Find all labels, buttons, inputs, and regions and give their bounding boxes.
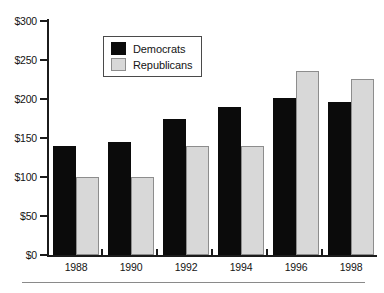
bar-republicans-1996 — [296, 71, 319, 255]
bar-republicans-1994 — [241, 146, 264, 255]
bar-republicans-1992 — [186, 146, 209, 255]
x-tick-3 — [266, 249, 268, 256]
plot-area — [47, 18, 377, 255]
x-tick-label-1988: 1988 — [65, 261, 88, 273]
y-tick-label-50: $50 — [20, 210, 37, 222]
bar-democrats-1988 — [53, 146, 76, 255]
y-tick-label-300: $300 — [14, 15, 37, 27]
bar-democrats-1998 — [328, 102, 351, 255]
legend-swatch-democrats — [111, 42, 126, 55]
y-tick-label-150: $150 — [14, 132, 37, 144]
legend-label-republicans: Republicans — [133, 59, 192, 71]
x-tick-label-1990: 1990 — [120, 261, 143, 273]
bar-republicans-1988 — [76, 177, 99, 255]
y-tick-label-100: $100 — [14, 171, 37, 183]
bar-chart-figure: $0$50$100$150$200$250$300 19881990199219… — [0, 0, 384, 293]
x-tick-0 — [101, 249, 103, 256]
bar-democrats-1996 — [273, 98, 296, 255]
x-tick-label-1992: 1992 — [175, 261, 198, 273]
legend-item-democrats: Democrats — [111, 42, 192, 55]
bar-republicans-1990 — [131, 177, 154, 255]
legend-item-republicans: Republicans — [111, 58, 192, 71]
y-tick-label-250: $250 — [14, 54, 37, 66]
bar-republicans-1998 — [351, 79, 374, 255]
x-tick-label-1994: 1994 — [230, 261, 253, 273]
x-tick-4 — [321, 249, 323, 256]
bar-democrats-1992 — [163, 119, 186, 256]
x-tick-label-1998: 1998 — [340, 261, 363, 273]
chart-legend: Democrats Republicans — [103, 36, 202, 77]
x-tick-2 — [211, 249, 213, 256]
bar-democrats-1990 — [108, 142, 131, 255]
footer-divider — [22, 282, 365, 283]
footer-caption — [22, 286, 367, 293]
legend-label-democrats: Democrats — [133, 43, 185, 55]
bar-democrats-1994 — [218, 107, 241, 255]
x-tick-label-1996: 1996 — [285, 261, 308, 273]
x-tick-1 — [156, 249, 158, 256]
legend-swatch-republicans — [111, 58, 126, 71]
y-tick-label-200: $200 — [14, 93, 37, 105]
y-tick-label-0: $0 — [26, 249, 37, 261]
